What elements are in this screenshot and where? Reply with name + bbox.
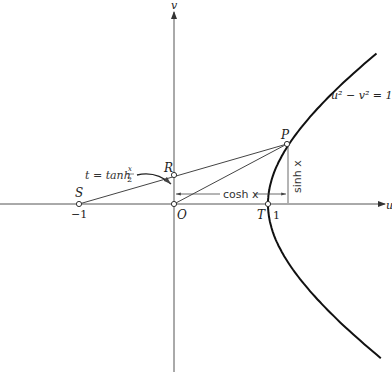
hyperbola-diagram: u v cosh x sinh x t = tanh x 2 S −1 O R …	[0, 0, 392, 379]
label-O: O	[177, 208, 187, 222]
label-R: R	[163, 161, 173, 175]
cosh-label: cosh x	[223, 188, 259, 201]
label-minus-one: −1	[71, 208, 87, 221]
frac-den: 2	[127, 175, 132, 184]
point-S	[76, 201, 81, 206]
point-P	[284, 141, 289, 146]
point-T	[265, 201, 270, 206]
label-P: P	[280, 128, 290, 142]
point-O	[171, 201, 176, 206]
label-S: S	[75, 186, 83, 200]
label-T: T	[257, 208, 266, 222]
u-axis-label: u	[386, 199, 392, 212]
tanh-annotation: t = tanh	[85, 169, 131, 182]
frac-num: x	[128, 165, 132, 173]
label-one: 1	[273, 209, 280, 222]
curve-equation: u² − v² = 1	[331, 89, 392, 102]
v-axis-label: v	[171, 0, 178, 12]
sinh-label: sinh x	[291, 160, 304, 193]
